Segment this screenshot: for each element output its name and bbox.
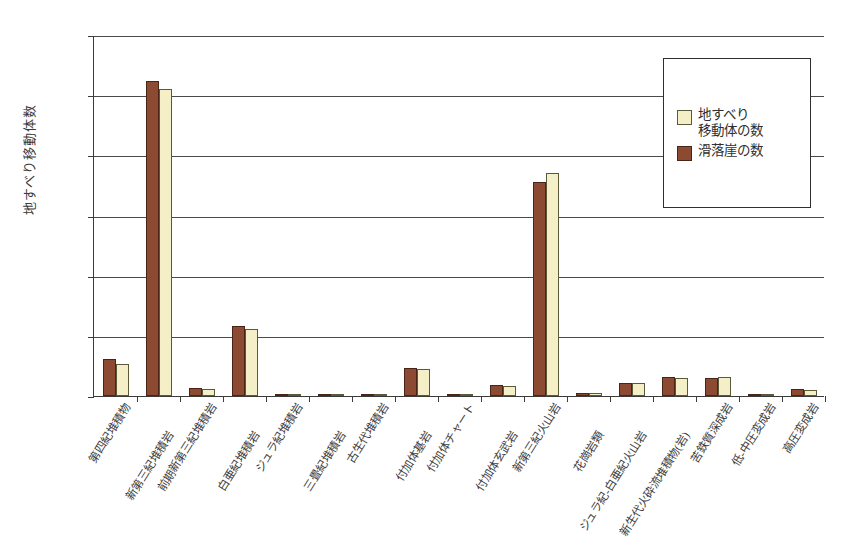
bar-group xyxy=(352,394,395,396)
x-tick-label: 第四紀堆積物 xyxy=(84,400,133,465)
bar-group xyxy=(739,394,782,396)
bar-landslide-body xyxy=(202,389,215,396)
bar-group xyxy=(696,377,739,396)
bar-scarp xyxy=(619,383,632,396)
bar-group xyxy=(137,81,180,396)
x-tick-label: 低-中圧変成岩 xyxy=(727,400,778,469)
bar-landslide-body xyxy=(718,377,731,396)
bar-scarp xyxy=(146,81,159,396)
bar-scarp xyxy=(232,326,245,396)
bar-landslide-body xyxy=(331,394,344,396)
bar-landslide-body xyxy=(804,390,817,396)
bar-scarp xyxy=(748,394,761,396)
bar-group xyxy=(524,173,567,396)
bar-group xyxy=(481,385,524,396)
bar-group xyxy=(309,394,352,396)
bar-group xyxy=(610,383,653,396)
bar-scarp xyxy=(662,377,675,396)
bar-group xyxy=(653,377,696,396)
bar-scarp xyxy=(490,385,503,396)
bar-group xyxy=(438,394,481,396)
bar-scarp xyxy=(275,394,288,396)
x-tick-label: 苦鉄質深成岩 xyxy=(686,400,735,465)
bar-scarp xyxy=(576,393,589,396)
bar-landslide-body xyxy=(761,394,774,396)
legend-label-line2: 移動体の数 xyxy=(698,123,763,139)
bar-scarp xyxy=(318,394,331,396)
bar-scarp xyxy=(189,388,202,396)
bar-group xyxy=(567,393,610,396)
bar-scarp xyxy=(404,368,417,396)
bar-scarp xyxy=(447,394,460,396)
y-tick-mark xyxy=(88,397,94,398)
bar-landslide-body xyxy=(460,394,473,396)
bar-group xyxy=(395,368,438,396)
bar-group xyxy=(266,394,309,396)
x-tick-label: 高圧変成岩 xyxy=(778,400,821,456)
bar-scarp xyxy=(791,389,804,396)
x-axis-labels: 第四紀堆積物新第三紀堆積岩前期新第三紀堆積岩白亜紀堆積岩ジュラ紀堆積岩三畳紀堆積… xyxy=(93,400,824,550)
bar-chart: 地すべり移動体数 6,0005,0004,0003,0002,0001,0000… xyxy=(0,0,844,559)
x-tick-mark xyxy=(825,396,826,402)
bar-landslide-body xyxy=(546,173,559,396)
bar-group xyxy=(94,359,137,396)
bar-scarp xyxy=(103,359,116,396)
bar-landslide-body xyxy=(632,383,645,396)
legend-swatch xyxy=(677,146,692,161)
bar-group xyxy=(223,326,266,396)
legend: 地すべり移動体の数滑落崖の数 xyxy=(663,58,811,208)
y-axis-title: 地すべり移動体数 xyxy=(19,75,38,245)
bar-landslide-body xyxy=(417,369,430,396)
x-tick-label: 花崗岩類 xyxy=(569,428,606,474)
bar-scarp xyxy=(705,378,718,396)
bar-landslide-body xyxy=(675,378,688,396)
legend-item: 滑落崖の数 xyxy=(677,143,763,161)
bar-landslide-body xyxy=(288,394,301,396)
bar-landslide-body xyxy=(159,89,172,396)
legend-swatch xyxy=(677,110,692,125)
x-tick-label: 三畳紀堆積岩 xyxy=(299,428,348,493)
legend-item: 地すべり移動体の数 xyxy=(677,107,763,139)
bar-group xyxy=(180,388,223,396)
legend-label: 地すべり移動体の数 xyxy=(698,107,763,139)
bar-landslide-body xyxy=(116,364,129,396)
bar-landslide-body xyxy=(245,329,258,396)
bar-scarp xyxy=(533,182,546,396)
bar-group xyxy=(782,389,825,396)
x-tick-label: 古生代堆積岩 xyxy=(342,400,391,465)
bar-landslide-body xyxy=(503,386,516,396)
bar-landslide-body xyxy=(589,393,602,396)
bar-scarp xyxy=(361,394,374,396)
legend-label: 滑落崖の数 xyxy=(698,143,763,159)
bar-landslide-body xyxy=(374,394,387,396)
